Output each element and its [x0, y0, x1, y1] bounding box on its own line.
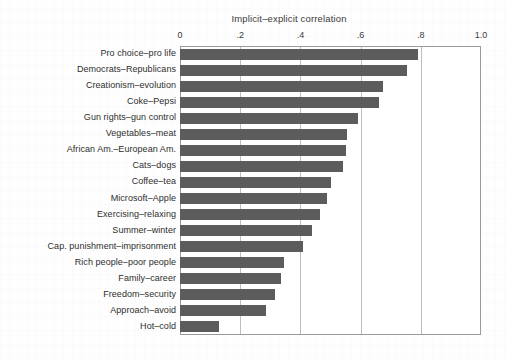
- bar[interactable]: [180, 177, 331, 188]
- bar-row[interactable]: [180, 287, 481, 303]
- bar[interactable]: [180, 161, 343, 172]
- bars-layer: [180, 46, 481, 335]
- category-label: Family–career: [0, 273, 176, 283]
- bar[interactable]: [180, 193, 327, 204]
- category-label: Gun rights–gun control: [0, 112, 176, 122]
- chart-figure: Implicit–explicit correlation 0.2.4.6.81…: [0, 0, 508, 359]
- x-tick-label-4: .8: [417, 30, 425, 40]
- bar[interactable]: [180, 113, 358, 124]
- bar-row[interactable]: [180, 78, 481, 94]
- bar[interactable]: [180, 65, 407, 76]
- bar-row[interactable]: [180, 191, 481, 207]
- bar[interactable]: [180, 81, 383, 92]
- category-label: Cats–dogs: [0, 160, 176, 170]
- chart-title: Implicit–explicit correlation: [0, 13, 508, 24]
- bar[interactable]: [180, 225, 312, 236]
- bar-row[interactable]: [180, 62, 481, 78]
- bar-row[interactable]: [180, 223, 481, 239]
- category-label: Vegetables–meat: [0, 128, 176, 138]
- bar[interactable]: [180, 289, 275, 300]
- x-tick-label-5: 1.0: [475, 30, 488, 40]
- bar[interactable]: [180, 241, 303, 252]
- bar-row[interactable]: [180, 142, 481, 158]
- category-label: Exercising–relaxing: [0, 209, 176, 219]
- bar-row[interactable]: [180, 271, 481, 287]
- category-label: Summer–winter: [0, 225, 176, 235]
- bar-row[interactable]: [180, 46, 481, 62]
- category-label: Cap. punishment–imprisonment: [0, 241, 176, 251]
- category-label: Pro choice–pro life: [0, 48, 176, 58]
- bar[interactable]: [180, 49, 418, 60]
- bar[interactable]: [180, 97, 379, 108]
- category-label: Coffee–tea: [0, 176, 176, 186]
- bar-row[interactable]: [180, 239, 481, 255]
- category-label: Microsoft–Apple: [0, 193, 176, 203]
- bar-row[interactable]: [180, 158, 481, 174]
- category-label: Rich people–poor people: [0, 257, 176, 267]
- x-tick-label-2: .4: [297, 30, 305, 40]
- category-label: Freedom–security: [0, 289, 176, 299]
- bar[interactable]: [180, 305, 266, 316]
- category-label: Hot–cold: [0, 321, 176, 331]
- x-tick-label-0: 0: [177, 30, 182, 40]
- bar-row[interactable]: [180, 94, 481, 110]
- bar-row[interactable]: [180, 207, 481, 223]
- bar[interactable]: [180, 209, 320, 220]
- bar[interactable]: [180, 257, 284, 268]
- bar[interactable]: [180, 273, 281, 284]
- bar[interactable]: [180, 129, 347, 140]
- category-label: African Am.–European Am.: [0, 144, 176, 154]
- category-label: Creationism–evolution: [0, 80, 176, 90]
- x-tick-label-1: .2: [236, 30, 244, 40]
- bar-row[interactable]: [180, 319, 481, 335]
- x-tick-label-3: .6: [357, 30, 365, 40]
- x-axis-tick-labels: 0.2.4.6.81.0: [180, 30, 481, 44]
- bar-row[interactable]: [180, 126, 481, 142]
- bar-row[interactable]: [180, 255, 481, 271]
- bar[interactable]: [180, 321, 219, 332]
- y-axis-category-labels: Pro choice–pro lifeDemocrats–Republicans…: [0, 46, 176, 335]
- bar-row[interactable]: [180, 110, 481, 126]
- category-label: Democrats–Republicans: [0, 64, 176, 74]
- category-label: Coke–Pepsi: [0, 96, 176, 106]
- bar-row[interactable]: [180, 174, 481, 190]
- category-label: Approach–avoid: [0, 305, 176, 315]
- bar[interactable]: [180, 145, 346, 156]
- bar-row[interactable]: [180, 303, 481, 319]
